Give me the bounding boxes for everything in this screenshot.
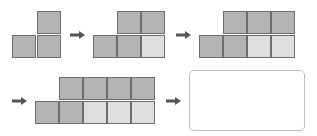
right-arrow-icon	[12, 97, 27, 105]
square-dark	[12, 35, 36, 58]
square-dark	[35, 101, 59, 124]
right-arrow-icon	[166, 97, 181, 105]
square-light	[247, 35, 271, 58]
square-dark	[37, 35, 61, 58]
square-light	[131, 101, 155, 124]
square-light	[107, 101, 131, 124]
square-dark	[37, 11, 61, 34]
square-dark	[271, 11, 295, 34]
square-light	[141, 35, 165, 58]
square-dark	[247, 11, 271, 34]
square-dark	[223, 11, 247, 34]
square-dark	[117, 35, 141, 58]
square-dark	[223, 35, 247, 58]
answer-box[interactable]	[189, 70, 305, 131]
square-dark	[83, 77, 107, 100]
square-dark	[59, 101, 83, 124]
square-light	[271, 35, 295, 58]
square-dark	[59, 77, 83, 100]
square-dark	[93, 35, 117, 58]
square-dark	[199, 35, 223, 58]
square-light	[83, 101, 107, 124]
right-arrow-icon	[176, 31, 191, 39]
square-dark	[131, 77, 155, 100]
square-dark	[107, 77, 131, 100]
square-dark	[117, 11, 141, 34]
square-dark	[141, 11, 165, 34]
right-arrow-icon	[70, 31, 85, 39]
